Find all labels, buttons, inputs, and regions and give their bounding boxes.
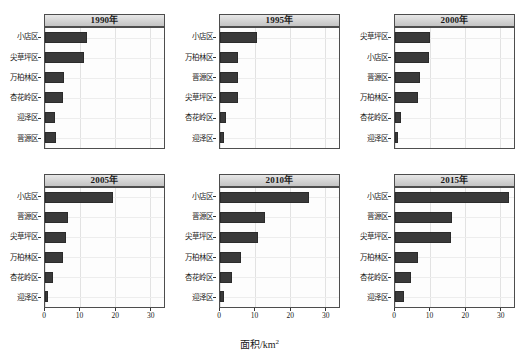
y-axis-tick-mark: [213, 118, 216, 119]
bar-slot: [220, 92, 339, 103]
bar-slot: [45, 52, 164, 63]
y-axis-tick-label: 小店区: [17, 33, 38, 41]
y-axis-tick-label: 小店区: [192, 33, 213, 41]
y-axis-tick-label: 杏花岭区: [10, 94, 38, 102]
x-axis: [44, 149, 165, 165]
bar-series: [45, 188, 164, 308]
bar: [220, 252, 241, 263]
bar: [45, 252, 63, 263]
bar-slot: [220, 52, 339, 63]
y-axis-labels: 尖草坪区小店区晋源区万柏林区杏花岭区迎泽区: [350, 27, 388, 149]
panel-strip: 1995年: [219, 14, 340, 27]
x-axis-title: 面积/km2: [0, 336, 519, 351]
bar-slot: [45, 192, 164, 203]
bar-slot: [395, 32, 514, 43]
bar-slot: [220, 252, 339, 263]
bar: [220, 72, 238, 83]
y-axis-tick-mark: [38, 297, 41, 298]
bar-slot: [395, 232, 514, 243]
bar: [220, 291, 224, 302]
y-axis-tick-mark: [213, 257, 216, 258]
y-axis-tick-mark: [38, 138, 41, 139]
y-axis-tick-mark: [213, 237, 216, 238]
x-axis-tick-label: 0: [392, 312, 396, 320]
bar-slot: [220, 192, 339, 203]
y-axis-tick-mark: [213, 196, 216, 197]
y-axis-tick-label: 晋源区: [17, 135, 38, 143]
panel-2015年: 2015年小店区晋源区尖草坪区万柏林区杏花岭区迎泽区0102030: [350, 174, 519, 325]
bar-slot: [220, 132, 339, 143]
y-axis-tick-mark: [213, 37, 216, 38]
y-axis-tick-label: 尖草坪区: [360, 233, 388, 241]
panel-2005年: 2005年小店区晋源区尖草坪区万柏林区杏花岭区迎泽区0102030: [0, 174, 169, 325]
bar: [395, 192, 509, 203]
y-axis-tick-mark: [388, 257, 391, 258]
bar: [395, 291, 404, 302]
y-axis-labels: 小店区晋源区尖草坪区万柏林区杏花岭区迎泽区: [0, 187, 38, 309]
bar-series: [220, 188, 339, 308]
bar-slot: [45, 272, 164, 283]
y-axis-tick-mark: [213, 97, 216, 98]
y-axis-tick-label: 尖草坪区: [360, 33, 388, 41]
bar-slot: [45, 92, 164, 103]
bar-slot: [220, 72, 339, 83]
y-axis-tick-label: 万柏林区: [360, 254, 388, 262]
y-axis-labels: 小店区万柏林区晋源区尖草坪区杏花岭区迎泽区: [175, 27, 213, 149]
y-axis-tick-mark: [388, 277, 391, 278]
y-axis-tick-mark: [388, 237, 391, 238]
y-axis-tick-label: 尖草坪区: [10, 233, 38, 241]
panel-strip: 2015年: [394, 174, 515, 187]
y-axis-tick-mark: [388, 57, 391, 58]
y-axis-tick-label: 万柏林区: [10, 74, 38, 82]
y-axis-tick-mark: [38, 77, 41, 78]
y-axis-tick-label: 万柏林区: [360, 94, 388, 102]
panel-strip: 2005年: [44, 174, 165, 187]
y-axis-tick-mark: [213, 138, 216, 139]
y-axis-tick-label: 万柏林区: [185, 54, 213, 62]
bar: [220, 112, 226, 123]
y-axis-tick-mark: [38, 237, 41, 238]
bar: [45, 291, 48, 302]
bar-slot: [220, 212, 339, 223]
bar-slot: [220, 272, 339, 283]
bar-slot: [395, 252, 514, 263]
plot-row: 小店区尖草坪区万柏林区杏花岭区迎泽区晋源区: [0, 27, 169, 149]
y-axis-tick-mark: [38, 57, 41, 58]
bar: [395, 132, 398, 143]
bar-slot: [45, 232, 164, 243]
y-axis-tick-mark: [388, 297, 391, 298]
bar-slot: [45, 32, 164, 43]
y-axis-tick-mark: [388, 77, 391, 78]
bar: [395, 212, 452, 223]
bar-slot: [395, 192, 514, 203]
y-axis-tick-label: 迎泽区: [367, 294, 388, 302]
y-axis-tick-label: 晋源区: [192, 74, 213, 82]
bar-slot: [220, 112, 339, 123]
y-axis-tick-mark: [388, 216, 391, 217]
panel-1995年: 1995年小店区万柏林区晋源区尖草坪区杏花岭区迎泽区: [175, 14, 344, 165]
bar-slot: [395, 212, 514, 223]
bar-slot: [395, 291, 514, 302]
y-axis-tick-label: 晋源区: [192, 213, 213, 221]
y-axis-tick-mark: [388, 37, 391, 38]
y-axis-tick-mark: [388, 196, 391, 197]
bar: [395, 72, 420, 83]
panel-title: 2015年: [441, 176, 469, 185]
y-axis-tick-label: 杏花岭区: [360, 274, 388, 282]
bar-series: [220, 28, 339, 148]
y-axis-tick-mark: [38, 118, 41, 119]
panel-strip: 2010年: [219, 174, 340, 187]
bar-slot: [220, 32, 339, 43]
bar: [45, 232, 66, 243]
bar-slot: [395, 92, 514, 103]
plot-area: [394, 187, 515, 309]
bar: [220, 192, 309, 203]
y-axis-labels: 小店区尖草坪区万柏林区杏花岭区迎泽区晋源区: [0, 27, 38, 149]
panel-2000年: 2000年尖草坪区小店区晋源区万柏林区杏花岭区迎泽区: [350, 14, 519, 165]
x-axis: [219, 149, 340, 165]
x-axis-tick-label: 20: [461, 312, 469, 320]
y-axis-tick-label: 小店区: [17, 193, 38, 201]
bar: [220, 32, 257, 43]
bar-slot: [395, 132, 514, 143]
panel-title: 1995年: [266, 16, 294, 25]
